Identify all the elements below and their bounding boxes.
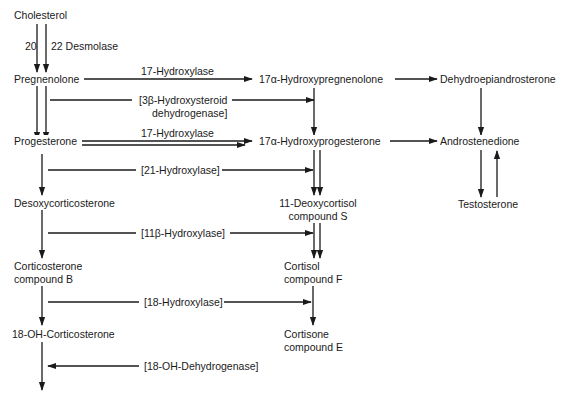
enzyme-18-oh-dehydrogenase: [18-OH-Dehydrogenase]: [143, 360, 259, 373]
compound-cortisone-alias: compound E: [284, 341, 343, 354]
compound-cortisol-name: Cortisol: [284, 260, 342, 273]
compound-progesterone: Progesterone: [13, 135, 78, 148]
compound-dehydroepiandrosterone: Dehydroepiandrosterone: [439, 73, 557, 86]
compound-androstenedione: Androstenedione: [439, 135, 520, 148]
compound-17a-hydroxyprogesterone: 17α-Hydroxyprogesterone: [258, 135, 382, 148]
compound-cortisone: Cortisone compound E: [283, 328, 344, 354]
enzyme-17-hydroxylase-mid: 17-Hydroxylase: [140, 127, 215, 140]
compound-11-deoxycortisol-alias: compound S: [265, 210, 371, 223]
enzyme-21-hydroxylase: [21-Hydroxylase]: [140, 164, 221, 177]
compound-cortisol: Cortisol compound F: [283, 260, 343, 286]
enzyme-11b-hydroxylase: [11β-Hydroxylase]: [140, 227, 226, 240]
enzyme-3b-hsd-line1: [3β-Hydroxysteroid: [138, 94, 228, 107]
compound-corticosterone-name: Corticosterone: [14, 260, 82, 273]
compound-18-oh-corticosterone: 18-OH-Corticosterone: [11, 328, 116, 341]
compound-17a-hydroxypregnenolone: 17α-Hydroxypregnenolone: [258, 73, 384, 86]
compound-cortisol-alias: compound F: [284, 273, 342, 286]
compound-cortisone-name: Cortisone: [284, 328, 343, 341]
compound-cholesterol: Cholesterol: [13, 9, 68, 22]
enzyme-desmolase-22: 22 Desmolase: [50, 40, 119, 53]
compound-11-deoxycortisol: 11-Deoxycortisol compound S: [264, 197, 372, 223]
enzyme-3b-hsd-line2: dehydrogenase]: [151, 107, 228, 120]
enzyme-desmolase-20: 20: [24, 40, 38, 53]
compound-testosterone: Testosterone: [457, 198, 519, 211]
compound-corticosterone: Corticosterone compound B: [13, 260, 83, 286]
compound-corticosterone-alias: compound B: [14, 273, 82, 286]
compound-desoxycorticosterone: Desoxycorticosterone: [13, 197, 116, 210]
enzyme-17-hydroxylase-top: 17-Hydroxylase: [140, 65, 215, 78]
compound-pregnenolone: Pregnenolone: [13, 73, 80, 86]
enzyme-18-hydroxylase: [18-Hydroxylase]: [143, 296, 224, 309]
compound-11-deoxycortisol-name: 11-Deoxycortisol: [265, 197, 371, 210]
